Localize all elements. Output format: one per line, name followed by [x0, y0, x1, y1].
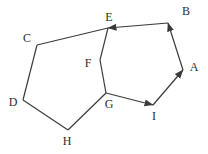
edge-D-C — [23, 45, 37, 100]
edge-F-G — [100, 60, 106, 93]
node-label-B: B — [182, 4, 190, 18]
edge-H-D — [23, 100, 68, 130]
node-label-F: F — [85, 56, 92, 70]
node-label-I: I — [152, 109, 156, 123]
labels-layer: ABCDEFGHI — [9, 4, 199, 148]
node-label-A: A — [190, 60, 199, 74]
node-label-E: E — [105, 10, 112, 24]
edge-E-F — [100, 28, 108, 60]
node-label-H: H — [63, 134, 72, 148]
node-label-G: G — [105, 97, 114, 111]
arrow-edge-A-B — [168, 23, 183, 70]
edges-layer — [23, 23, 183, 130]
edge-G-H — [68, 93, 106, 130]
arrow-edge-B-E — [108, 23, 168, 28]
edge-C-E — [37, 28, 108, 45]
graph-diagram: ABCDEFGHI — [0, 0, 208, 154]
node-label-C: C — [23, 31, 31, 45]
arrow-edge-I-A — [153, 70, 183, 105]
node-label-D: D — [9, 95, 18, 109]
graph-svg: ABCDEFGHI — [0, 0, 208, 154]
